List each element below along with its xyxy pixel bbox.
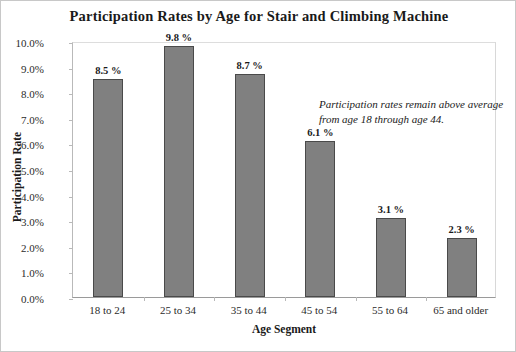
y-axis-tick-label: 9.0% bbox=[0, 63, 44, 75]
bar-group[interactable]: 8.7 % bbox=[214, 43, 285, 297]
bar-value-label: 9.8 % bbox=[166, 32, 192, 43]
bar-group[interactable]: 8.5 % bbox=[73, 43, 144, 297]
x-axis-tick-mark bbox=[426, 297, 427, 301]
chart-annotation: Participation rates remain above average… bbox=[319, 97, 509, 127]
y-axis-tick-label: 10.0% bbox=[0, 37, 44, 49]
bar-value-label: 8.7 % bbox=[237, 60, 263, 71]
x-axis-tick-label: 35 to 44 bbox=[231, 304, 267, 316]
bar[interactable] bbox=[447, 238, 477, 297]
y-axis-tick-label: 5.0% bbox=[0, 165, 44, 177]
chart-container: Participation Rates by Age for Stair and… bbox=[0, 0, 516, 352]
x-axis-tick-mark bbox=[144, 297, 145, 301]
x-axis-tick-label: 55 to 64 bbox=[372, 304, 408, 316]
bar-value-label: 8.5 % bbox=[95, 65, 121, 76]
bar-group[interactable]: 2.3 % bbox=[426, 43, 497, 297]
bar-group[interactable]: 9.8 % bbox=[144, 43, 215, 297]
plot-area: 0.0%1.0%2.0%3.0%4.0%5.0%6.0%7.0%8.0%9.0%… bbox=[72, 42, 496, 298]
bar-value-label: 3.1 % bbox=[378, 204, 404, 215]
bar[interactable] bbox=[93, 79, 123, 297]
x-axis-tick-mark bbox=[356, 297, 357, 301]
x-axis-title: Age Segment bbox=[72, 323, 496, 335]
y-axis-tick-label: 0.0% bbox=[0, 293, 44, 305]
x-axis-tick-mark bbox=[214, 297, 215, 301]
y-axis-tick-label: 6.0% bbox=[0, 139, 44, 151]
x-axis-tick-label: 65 and older bbox=[433, 304, 488, 316]
y-axis-tick-label: 3.0% bbox=[0, 216, 44, 228]
y-axis-tick-label: 4.0% bbox=[0, 191, 44, 203]
bar-group[interactable]: 6.1 % bbox=[285, 43, 356, 297]
chart-title: Participation Rates by Age for Stair and… bbox=[1, 8, 516, 25]
bar[interactable] bbox=[235, 74, 265, 297]
bar-value-label: 6.1 % bbox=[307, 127, 333, 138]
bar[interactable] bbox=[376, 218, 406, 297]
y-axis-tick-label: 1.0% bbox=[0, 267, 44, 279]
bar-group[interactable]: 3.1 % bbox=[356, 43, 427, 297]
x-axis-tick-label: 25 to 34 bbox=[160, 304, 196, 316]
bar[interactable] bbox=[305, 141, 335, 297]
x-axis-tick-mark bbox=[285, 297, 286, 301]
y-axis-tick-mark bbox=[69, 299, 73, 300]
bar[interactable] bbox=[164, 46, 194, 297]
y-axis-tick-label: 8.0% bbox=[0, 88, 44, 100]
x-axis-tick-label: 45 to 54 bbox=[301, 304, 337, 316]
x-axis-tick-label: 18 to 24 bbox=[89, 304, 125, 316]
bar-value-label: 2.3 % bbox=[449, 224, 475, 235]
y-axis-tick-label: 2.0% bbox=[0, 242, 44, 254]
y-axis-tick-label: 7.0% bbox=[0, 114, 44, 126]
